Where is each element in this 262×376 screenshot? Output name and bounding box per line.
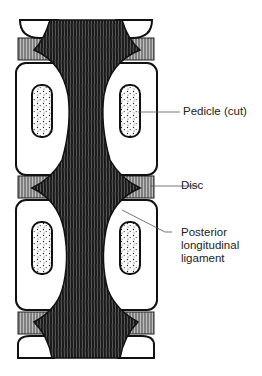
label-line-2: longitudinal — [181, 239, 239, 252]
label-line-3: ligament — [181, 252, 239, 265]
label-line-1: Posterior — [181, 226, 239, 239]
spine-illustration — [0, 0, 262, 376]
label-disc: Disc — [181, 179, 203, 192]
label-posterior-longitudinal-ligament: Posterior longitudinal ligament — [181, 226, 239, 265]
label-pedicle-cut: Pedicle (cut) — [183, 105, 247, 118]
